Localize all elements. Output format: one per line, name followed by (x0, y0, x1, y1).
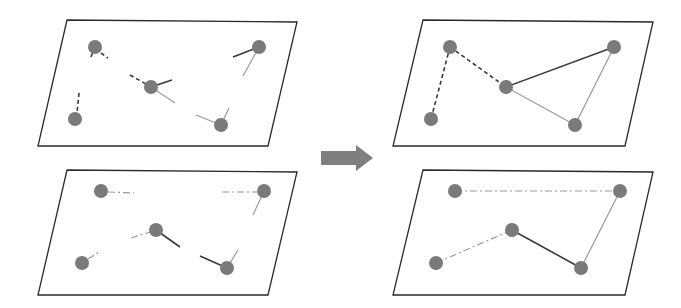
graph-node (257, 184, 271, 198)
input-layer-1-fragments (38, 20, 297, 146)
graph-node (505, 223, 519, 237)
graph-node (149, 223, 163, 237)
graph-node (574, 261, 588, 275)
graph-node (88, 40, 102, 54)
plane-outline (393, 20, 653, 146)
graph-node (443, 40, 457, 54)
graph-node (429, 256, 443, 270)
graph-merge-diagram (0, 0, 681, 308)
graph-node (448, 184, 462, 198)
graph-node (607, 40, 621, 54)
graph-node (252, 40, 266, 54)
output-layer-1-connected (393, 20, 653, 146)
input-layer-2-fragments (38, 170, 297, 295)
graph-node (75, 256, 89, 270)
graph-node (424, 112, 438, 126)
graph-node (613, 184, 627, 198)
plane-outline (38, 20, 297, 146)
right-arrow-icon (321, 145, 373, 171)
graph-node (68, 112, 82, 126)
graph-node (220, 261, 234, 275)
graph-node (94, 184, 108, 198)
graph-node (214, 118, 228, 132)
graph-node (499, 80, 513, 94)
graph-node (144, 80, 158, 94)
output-layer-2-connected (393, 170, 653, 295)
graph-node (568, 118, 582, 132)
